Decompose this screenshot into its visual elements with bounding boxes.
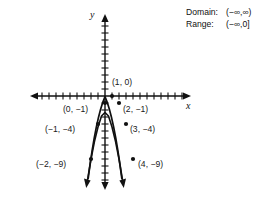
y-axis-label: y [90, 10, 94, 20]
point-label-2-m1: (2, −1) [123, 105, 148, 114]
point-3-m4 [124, 122, 128, 126]
point-0-m1 [103, 101, 107, 105]
domain-value: (−∞,∞) [226, 7, 251, 17]
point-label-3-m4: (3, −4) [130, 125, 155, 134]
point-label-m2-m9: (−2, −9) [36, 160, 66, 169]
domain-row: Domain:(−∞,∞) [186, 6, 251, 18]
point-2-m1 [117, 101, 121, 105]
point-label-1-0: (1, 0) [112, 78, 132, 87]
point-m1-m4 [96, 122, 100, 126]
graph-canvas [0, 0, 265, 200]
point-label-m1-m4: (−1, −4) [45, 125, 75, 134]
canvas-background [0, 0, 265, 200]
point-label-0-m1: (0, −1) [63, 105, 88, 114]
point-4-m9 [131, 157, 135, 161]
range-row: Range:(−∞,0] [186, 18, 251, 30]
x-axis-label: x [186, 101, 190, 111]
point-label-4-m9: (4, −9) [138, 160, 163, 169]
point-1-0 [110, 94, 114, 98]
range-value: (−∞,0] [226, 19, 250, 29]
range-label: Range: [186, 18, 226, 30]
domain-label: Domain: [186, 6, 226, 18]
point-m2-m9 [89, 157, 93, 161]
domain-range-note: Domain:(−∞,∞) Range:(−∞,0] [186, 6, 251, 30]
